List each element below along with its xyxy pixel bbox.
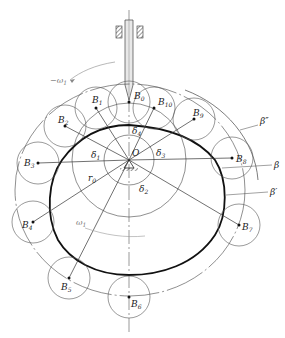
diagram-canvas: O r0 δ1 δ2 δ3 δ4 −ω1 ω1 β″ β β′ B0 B1 B2… — [0, 0, 285, 338]
pitch-curve-label: β′ — [269, 187, 277, 197]
label-B4: B4 — [21, 220, 33, 231]
label-B10: B10 — [157, 97, 172, 108]
omega-label-top: −ω1 — [50, 76, 67, 86]
rotation-arrow-top — [70, 62, 115, 80]
label-B1: B1 — [91, 95, 102, 106]
ground-hatch — [120, 168, 138, 171]
label-B7: B7 — [241, 222, 253, 233]
angle-label-d2: δ2 — [139, 184, 148, 195]
guide-right — [137, 26, 143, 38]
cam-diagram: O r0 δ1 δ2 δ3 δ4 −ω1 ω1 β″ β β′ B0 B1 B2… — [0, 0, 285, 338]
label-B9: B9 — [192, 108, 204, 119]
angle-label-d1: δ1 — [91, 150, 100, 161]
offset-curve-label: β″ — [259, 116, 269, 126]
angle-label-d3: δ3 — [156, 148, 165, 159]
center-label: O — [132, 148, 140, 158]
angle-label-d4: δ4 — [132, 126, 141, 137]
base-radius-label: r0 — [88, 173, 96, 184]
label-B0: B0 — [133, 91, 145, 102]
label-B3: B3 — [23, 158, 35, 169]
pitch-curve — [15, 84, 245, 296]
label-B2: B2 — [57, 115, 69, 126]
label-B6: B6 — [130, 299, 142, 310]
profile-label: β — [273, 160, 279, 170]
guide-left — [116, 26, 122, 38]
label-B8: B8 — [235, 154, 247, 165]
omega-label-bottom: ω1 — [76, 218, 86, 228]
label-B5: B5 — [60, 282, 72, 293]
